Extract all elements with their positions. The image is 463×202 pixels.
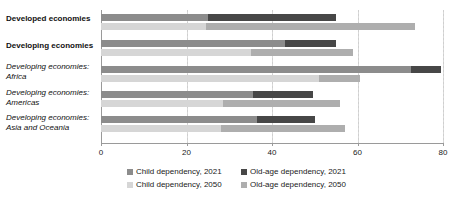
legend-label: Child dependency, 2050 bbox=[136, 180, 222, 189]
category-label-line: Asia and Oceania bbox=[6, 123, 98, 133]
category-label-developed-economies: Developed economies bbox=[6, 14, 98, 24]
category-label-asia-and-oceania: Developing economies:Asia and Oceania bbox=[6, 113, 98, 132]
legend-item-old-age-dependency-2050[interactable]: Old-age dependency, 2050 bbox=[241, 179, 346, 190]
legend-swatch-icon bbox=[127, 169, 133, 175]
x-tick-label: 60 bbox=[353, 148, 362, 157]
category-label-developing-economies: Developing economies bbox=[6, 41, 98, 51]
legend-item-child-dependency-2021[interactable]: Child dependency, 2021 bbox=[127, 166, 222, 177]
category-label-line: Developing economies: bbox=[6, 113, 98, 123]
legend-swatch-icon bbox=[241, 182, 247, 188]
legend-swatch-icon bbox=[241, 169, 247, 175]
category-label-line: Developing economies: bbox=[6, 88, 98, 98]
category-label-line: Americas bbox=[6, 98, 98, 108]
x-tick-label: 0 bbox=[99, 148, 103, 157]
legend-item-child-dependency-2050[interactable]: Child dependency, 2050 bbox=[127, 179, 222, 190]
category-label-line: Developing economies bbox=[6, 41, 98, 51]
x-tick-label: 40 bbox=[268, 148, 277, 157]
category-label-line: Africa bbox=[6, 72, 98, 82]
legend-label: Child dependency, 2021 bbox=[136, 167, 222, 176]
x-tick-label: 20 bbox=[182, 148, 191, 157]
dependency-ratio-chart: Developed economies Developing economies… bbox=[0, 0, 463, 202]
legend-swatch-icon bbox=[127, 182, 133, 188]
legend-item-old-age-dependency-2021[interactable]: Old-age dependency, 2021 bbox=[241, 166, 346, 177]
x-axis-tick-labels: 020406080 bbox=[101, 10, 443, 170]
category-label-americas: Developing economies:Americas bbox=[6, 88, 98, 107]
gridline bbox=[443, 10, 444, 143]
category-label-africa: Developing economies:Africa bbox=[6, 62, 98, 81]
x-tick-mark bbox=[443, 143, 444, 146]
chart-legend: Child dependency, 2021 Old-age dependenc… bbox=[89, 164, 374, 194]
legend-label: Old-age dependency, 2050 bbox=[250, 180, 346, 189]
category-label-line: Developing economies: bbox=[6, 62, 98, 72]
legend-label: Old-age dependency, 2021 bbox=[250, 167, 346, 176]
x-tick-label: 80 bbox=[439, 148, 448, 157]
category-label-line: Developed economies bbox=[6, 14, 98, 24]
